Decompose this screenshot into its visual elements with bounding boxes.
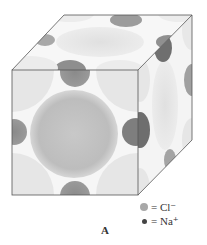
legend-label-chloride: Cl⁻ [160,200,176,214]
figure-caption: A [101,224,109,236]
legend-label-sodium: Na⁺ [160,214,179,228]
legend-equals: = [151,200,157,214]
chloride-ion [30,90,118,178]
legend-item-chloride: = Cl⁻ [140,200,179,214]
sodium-ion [60,181,90,211]
legend-item-sodium: = Na⁺ [140,214,179,228]
chloride-swatch-icon [140,203,148,211]
sodium-ion [1,119,27,145]
sodium-swatch-icon [142,219,147,224]
legend-equals: = [151,214,157,228]
legend: = Cl⁻ = Na⁺ [140,200,179,228]
